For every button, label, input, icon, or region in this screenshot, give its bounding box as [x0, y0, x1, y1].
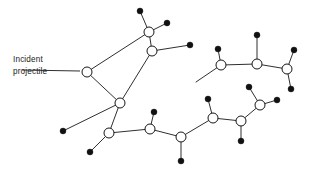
- incident-projectile-label-line1: Incident: [13, 55, 43, 64]
- dot-left-lower: [87, 149, 93, 155]
- node-incident-impact: [82, 67, 92, 77]
- node-mid-left: [115, 98, 125, 108]
- edge-impact-to-upper: [87, 32, 149, 72]
- incident-projectile-label-line2: projectile: [13, 67, 48, 76]
- node-lower-left: [104, 128, 114, 138]
- cascade-figure: Incident projectile: [0, 0, 314, 178]
- annotation-label-layer: Incident projectile: [13, 55, 48, 76]
- edge-upperB-to-midleft: [120, 51, 152, 103]
- dot-above-right-c: [291, 47, 297, 53]
- dot-top-apex: [137, 8, 143, 14]
- node-upper-chain-a: [144, 27, 154, 37]
- dot-mid-lower-a: [151, 109, 157, 115]
- dot-lower-right-dn: [238, 138, 244, 144]
- dot-right-tail: [288, 86, 294, 92]
- dot-mid-lower-b: [178, 158, 184, 164]
- node-upper-right-c: [282, 64, 292, 74]
- edge-impact-to-midleft: [87, 72, 120, 103]
- cascade-diagram: Incident projectile: [0, 0, 314, 178]
- edge-upperB-to-branch: [152, 45, 190, 51]
- dot-above-right-b: [254, 32, 260, 38]
- node-upper-right-a: [216, 60, 226, 70]
- dot-lower-right-up: [205, 96, 211, 102]
- dot-right-branch: [274, 97, 280, 103]
- node-lower-right-b: [236, 116, 246, 126]
- edge-lowerL-to-lowmidA: [109, 129, 150, 133]
- dot-mid-branch: [187, 42, 193, 48]
- dot-far-left-lower: [60, 128, 66, 134]
- dot-lower-right-arm: [246, 84, 252, 90]
- dot-above-right-a: [215, 46, 221, 52]
- node-upper-chain-b: [147, 46, 157, 56]
- node-lower-mid-a: [145, 124, 155, 134]
- node-lower-mid-b: [176, 132, 186, 142]
- node-lower-right-a: [208, 113, 218, 123]
- node-lower-right-c: [255, 100, 265, 110]
- node-upper-right-b: [252, 59, 262, 69]
- edge-lowmidB-to-lowrtA: [181, 118, 213, 137]
- dot-upper-right-arm: [164, 20, 170, 26]
